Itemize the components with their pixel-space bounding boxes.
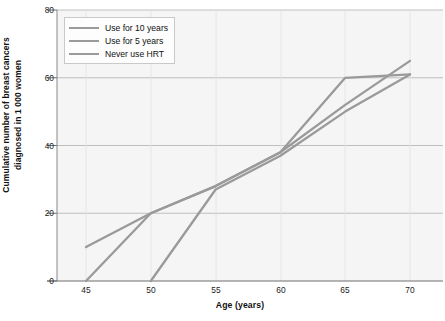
y-axis-title-line2: diagnosed in 1 000 women: [13, 60, 23, 170]
legend-swatch-icon: [69, 53, 99, 55]
legend-swatch-icon: [69, 27, 99, 29]
chart-figure: 80 60 40 20 0 45 50 55 60 65 70 Cumulati…: [0, 0, 445, 321]
chart-legend: Use for 10 years Use for 5 years Never u…: [64, 17, 175, 64]
y-axis-title-line1: Cumulative number of breast cancers: [1, 37, 11, 193]
x-tick-45: 45: [66, 285, 106, 295]
legend-label: Use for 5 years: [105, 36, 163, 46]
legend-label: Never use HRT: [105, 49, 164, 59]
x-tick-60: 60: [261, 285, 301, 295]
legend-item-never-use-hrt[interactable]: Never use HRT: [69, 47, 168, 60]
legend-item-use-for-5-years[interactable]: Use for 5 years: [69, 34, 168, 47]
x-axis-title: Age (years): [40, 300, 440, 310]
y-tick-80: 80: [24, 5, 54, 15]
legend-label: Use for 10 years: [105, 23, 168, 33]
legend-item-use-for-10-years[interactable]: Use for 10 years: [69, 21, 168, 34]
y-tick-0: 0: [24, 276, 54, 286]
x-tick-70: 70: [390, 285, 430, 295]
x-tick-55: 55: [196, 285, 236, 295]
legend-swatch-icon: [69, 40, 99, 42]
x-tick-65: 65: [325, 285, 365, 295]
y-axis-title: Cumulative number of breast cancersdiagn…: [1, 15, 31, 215]
x-tick-50: 50: [131, 285, 171, 295]
